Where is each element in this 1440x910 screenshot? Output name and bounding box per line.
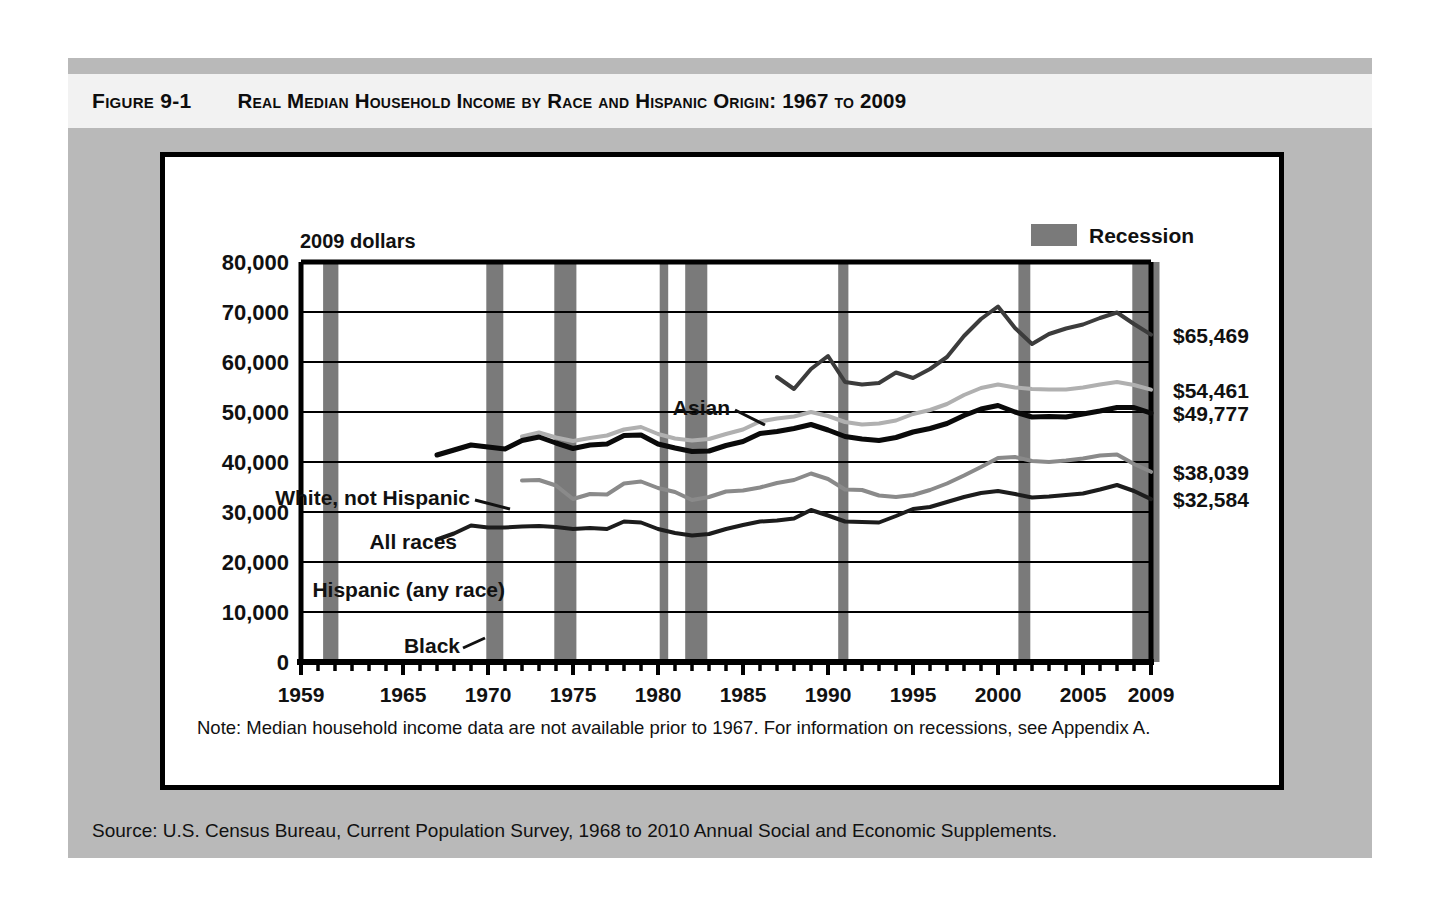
y-axis-tick-label: 40,000 xyxy=(222,450,289,475)
y-axis-tick-label: 10,000 xyxy=(222,600,289,625)
x-axis-tick-label: 2005 xyxy=(1060,683,1107,706)
figure-note: Note: Median household income data are n… xyxy=(197,713,1247,743)
y-axis-tick-label: 60,000 xyxy=(222,350,289,375)
series-end-value-black: $32,584 xyxy=(1173,488,1249,511)
figure-source: Source: U.S. Census Bureau, Current Popu… xyxy=(92,820,1057,842)
series-end-value-asian: $65,469 xyxy=(1173,324,1249,347)
y-axis-tick-label: 80,000 xyxy=(222,250,289,275)
series-end-value-all-races: $49,777 xyxy=(1173,402,1249,425)
legend-recession-label: Recession xyxy=(1089,224,1194,247)
x-axis-tick-label: 1959 xyxy=(278,683,325,706)
x-axis-tick-label: 1990 xyxy=(805,683,852,706)
figure-page: Figure 9-1 Real Median Household Income … xyxy=(0,0,1440,910)
x-axis-tick-label: 1970 xyxy=(465,683,512,706)
y-axis-tick-label: 50,000 xyxy=(222,400,289,425)
series-inline-label-black: Black xyxy=(404,634,460,657)
x-axis-tick-label: 1975 xyxy=(550,683,597,706)
y-axis-tick-label: 70,000 xyxy=(222,300,289,325)
figure-number-label: Figure 9-1 xyxy=(92,89,192,113)
y-axis-units-label: 2009 dollars xyxy=(300,230,416,252)
series-inline-label-white-not-hispanic: White, not Hispanic xyxy=(275,486,470,509)
x-axis-tick-label: 2009 xyxy=(1128,683,1175,706)
x-axis-tick-label: 2000 xyxy=(975,683,1022,706)
x-axis-tick-label: 1985 xyxy=(720,683,767,706)
legend-recession-swatch xyxy=(1031,224,1077,246)
series-end-value-white-not-hispanic: $54,461 xyxy=(1173,379,1249,402)
series-inline-label-asian: Asian xyxy=(673,396,730,419)
chart-panel: 010,00020,00030,00040,00050,00060,00070,… xyxy=(160,152,1284,790)
x-axis-tick-label: 1980 xyxy=(635,683,682,706)
page-title: Real Median Household Income by Race and… xyxy=(238,89,907,113)
x-axis-tick-label: 1995 xyxy=(890,683,937,706)
y-axis-tick-label: 0 xyxy=(277,650,289,675)
series-inline-label-all-races: All races xyxy=(369,530,457,553)
income-line-chart: 010,00020,00030,00040,00050,00060,00070,… xyxy=(165,157,1289,795)
series-inline-label-hispanic-any-race: Hispanic (any race) xyxy=(312,578,505,601)
figure-title-strip: Figure 9-1 Real Median Household Income … xyxy=(68,74,1372,128)
x-axis-tick-label: 1965 xyxy=(380,683,427,706)
series-end-value-hispanic-any-race: $38,039 xyxy=(1173,461,1249,484)
y-axis-tick-label: 20,000 xyxy=(222,550,289,575)
